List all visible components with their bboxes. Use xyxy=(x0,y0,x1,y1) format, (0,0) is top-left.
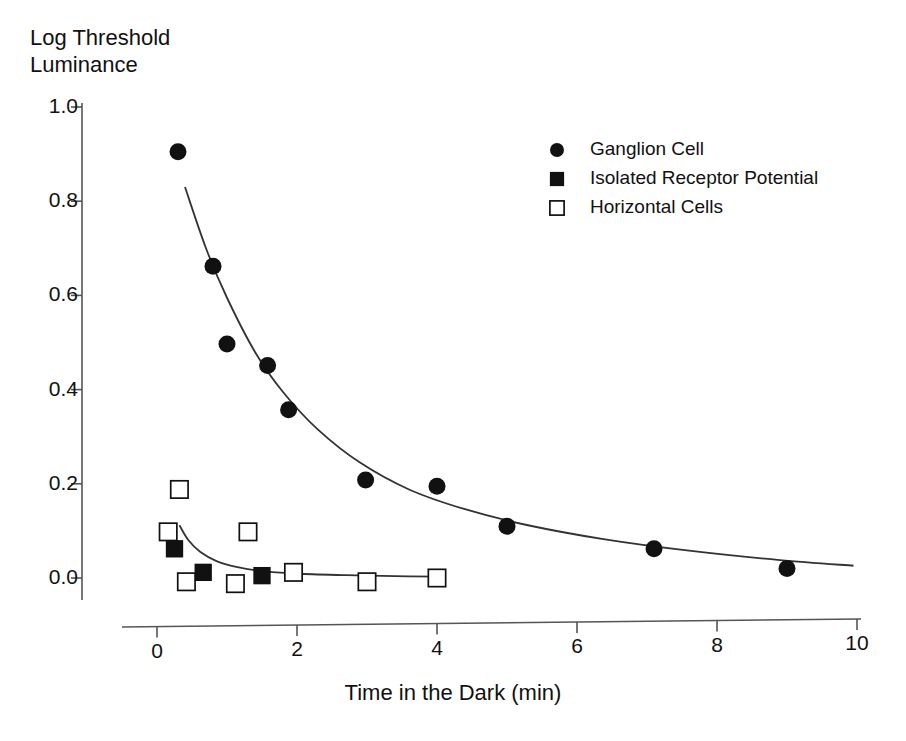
y-tick-label: 0.0 xyxy=(20,565,78,589)
legend-marker-3 xyxy=(550,201,564,215)
data-point xyxy=(358,573,375,590)
data-point xyxy=(166,540,183,557)
x-tick-label: 4 xyxy=(407,636,467,660)
data-point xyxy=(429,478,446,495)
y-tick-label: 0.2 xyxy=(20,471,78,495)
data-point xyxy=(227,575,244,592)
data-point xyxy=(285,564,302,581)
data-point xyxy=(219,335,236,352)
legend-markers xyxy=(550,143,564,215)
x-tick-label: 10 xyxy=(827,631,887,655)
y-tick-label: 0.6 xyxy=(20,282,78,306)
legend-label-2: Isolated Receptor Potential xyxy=(590,167,818,189)
data-point xyxy=(779,560,796,577)
legend-label-3: Horizontal Cells xyxy=(590,196,723,218)
y-tick-label: 0.8 xyxy=(20,188,78,212)
data-point xyxy=(253,567,270,584)
data-point xyxy=(170,143,187,160)
data-point xyxy=(160,523,177,540)
legend-label-1: Ganglion Cell xyxy=(590,138,704,160)
data-point xyxy=(357,472,374,489)
plot-area xyxy=(0,0,906,741)
y-tick-label: 0.4 xyxy=(20,377,78,401)
x-tick-label: 0 xyxy=(127,639,187,663)
data-point xyxy=(428,569,445,586)
fit-curves xyxy=(179,187,853,577)
data-point xyxy=(280,401,297,418)
data-point xyxy=(259,357,276,374)
legend-marker-2 xyxy=(550,172,564,186)
data-point xyxy=(205,258,222,275)
data-point xyxy=(646,540,663,557)
chart-container: Log ThresholdLuminance Time in the Dark … xyxy=(0,0,906,741)
data-point xyxy=(239,523,256,540)
x-tick-label: 8 xyxy=(687,633,747,657)
y-tick-label: 1.0 xyxy=(20,94,78,118)
data-point xyxy=(178,573,195,590)
x-tick-label: 2 xyxy=(267,637,327,661)
data-point xyxy=(195,564,212,581)
data-point xyxy=(499,518,516,535)
data-point xyxy=(171,481,188,498)
x-tick-label: 6 xyxy=(547,634,607,658)
legend-marker-1 xyxy=(550,143,564,157)
